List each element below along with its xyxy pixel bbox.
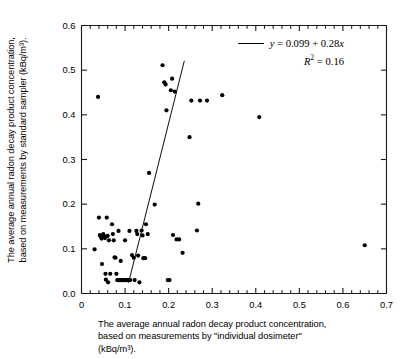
data-point <box>107 238 111 242</box>
x-tick-label: 0.7 <box>380 300 393 310</box>
data-point <box>205 98 209 102</box>
data-point <box>106 280 110 284</box>
data-points <box>92 63 366 284</box>
data-point <box>257 115 261 119</box>
equation-x-symbol: x <box>339 38 344 49</box>
data-point <box>167 278 171 282</box>
y-tick-label: 0.0 <box>44 289 76 299</box>
data-point <box>135 232 139 236</box>
x-axis-caption-line-1: The average annual radon decay product c… <box>98 318 398 330</box>
y-axis-title-line-1: The average annual radon decay product c… <box>6 0 18 300</box>
data-point <box>132 256 136 260</box>
data-point <box>133 278 137 282</box>
data-point <box>140 233 144 237</box>
x-tick-label: 0.6 <box>336 300 349 310</box>
data-point <box>105 215 109 219</box>
data-point <box>96 95 100 99</box>
data-point <box>143 256 147 260</box>
x-axis-caption-line-3: (kBq/m³). <box>98 343 398 355</box>
data-point <box>180 251 184 255</box>
data-point <box>127 229 131 233</box>
data-point <box>198 98 202 102</box>
legend-entry-r2: R2 = 0.16 <box>196 53 344 67</box>
data-point <box>160 63 164 67</box>
data-point <box>113 256 117 260</box>
y-tick-label: 0.3 <box>44 155 76 165</box>
scatter-plot-figure: The average annual radon decay product c… <box>0 0 418 359</box>
x-axis-caption: The average annual radon decay product c… <box>98 318 398 355</box>
y-tick-label: 0.4 <box>44 110 76 120</box>
data-point <box>196 202 200 206</box>
x-tick-label: 0.5 <box>293 300 306 310</box>
y-axis-title: The average annual radon decay product c… <box>6 0 46 300</box>
data-point <box>128 278 132 282</box>
data-point <box>146 232 150 236</box>
data-point <box>136 253 140 257</box>
data-point <box>163 82 167 86</box>
legend-line-swatch <box>238 43 264 44</box>
data-point <box>189 98 193 102</box>
data-point <box>116 229 120 233</box>
data-point <box>187 135 191 139</box>
y-tick-label: 0.2 <box>44 199 76 209</box>
data-point <box>119 259 123 263</box>
r2-value: = 0.16 <box>314 55 344 66</box>
data-point <box>220 93 224 97</box>
x-tick-label: 0.1 <box>119 300 132 310</box>
x-tick-label: 0.3 <box>206 300 219 310</box>
data-point <box>147 171 151 175</box>
data-point <box>110 222 114 226</box>
equation-body: = 0.099 + 0.28 <box>274 38 339 49</box>
y-tick-label: 0.5 <box>44 65 76 75</box>
data-point <box>100 262 104 266</box>
data-point <box>195 228 199 232</box>
data-point <box>114 272 118 276</box>
legend: y = 0.099 + 0.28x R2 = 0.16 <box>196 36 344 67</box>
y-tick-label: 0.6 <box>44 21 76 31</box>
data-point <box>140 228 144 232</box>
data-point <box>144 222 148 226</box>
data-point <box>169 88 173 92</box>
data-point <box>153 203 157 207</box>
data-point <box>137 280 141 284</box>
data-point <box>177 237 181 241</box>
y-axis-title-line-2: based on measurements by standard sample… <box>18 0 30 300</box>
y-tick-label: 0.1 <box>44 244 76 254</box>
x-tick-label: 0.2 <box>162 300 175 310</box>
data-point <box>112 238 116 242</box>
x-axis-caption-line-2: based on measurements by "individual dos… <box>98 330 398 342</box>
data-point <box>123 238 127 242</box>
legend-r2-label: R2 = 0.16 <box>304 54 344 67</box>
data-point <box>170 77 174 81</box>
legend-equation-label: y = 0.099 + 0.28x <box>270 38 344 49</box>
regression-line <box>129 61 185 283</box>
data-point <box>171 233 175 237</box>
data-point <box>164 108 168 112</box>
data-point <box>106 234 110 238</box>
data-point <box>363 243 367 247</box>
data-point <box>108 272 112 276</box>
data-point <box>103 272 107 276</box>
data-point <box>92 247 96 251</box>
data-point <box>97 215 101 219</box>
x-tick-label: 0.4 <box>249 300 262 310</box>
legend-entry-regression: y = 0.099 + 0.28x <box>196 36 344 50</box>
data-point <box>173 90 177 94</box>
x-tick-label: 0 <box>79 300 84 310</box>
data-point <box>111 232 115 236</box>
